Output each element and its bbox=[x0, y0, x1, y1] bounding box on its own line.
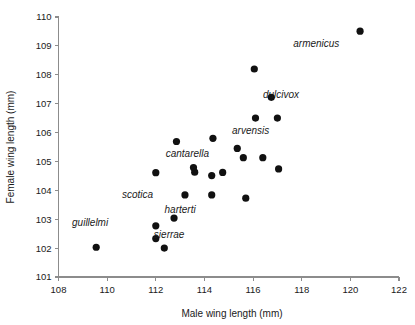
data-point bbox=[209, 135, 216, 142]
y-axis-tick-label: 104 bbox=[36, 185, 52, 196]
data-point bbox=[208, 191, 215, 198]
data-points-group bbox=[93, 28, 364, 252]
species-label: harterti bbox=[165, 204, 197, 215]
y-axis-tick-label: 102 bbox=[36, 243, 52, 254]
x-axis-tick-label: 116 bbox=[245, 284, 260, 295]
species-label: cantarella bbox=[166, 148, 210, 159]
data-point bbox=[93, 244, 100, 251]
x-axis-tick-label: 122 bbox=[391, 284, 407, 295]
data-point bbox=[161, 245, 168, 252]
y-axis-tick-label: 108 bbox=[36, 69, 52, 80]
data-point bbox=[234, 145, 241, 152]
data-point bbox=[356, 28, 363, 35]
species-label: dulcivox bbox=[263, 89, 300, 100]
data-point bbox=[181, 191, 188, 198]
x-axis-tick-label: 120 bbox=[342, 284, 358, 295]
y-axis-tick-label: 105 bbox=[36, 156, 52, 167]
y-axis-tick-label: 103 bbox=[36, 214, 52, 225]
data-point bbox=[240, 154, 247, 161]
data-point bbox=[173, 138, 180, 145]
x-axis-tick-label: 118 bbox=[294, 284, 309, 295]
data-point bbox=[259, 154, 266, 161]
y-axis-tick-label: 109 bbox=[36, 40, 52, 51]
y-axis-tick-label: 101 bbox=[36, 271, 52, 282]
data-point bbox=[251, 65, 258, 72]
x-axis-tick-label: 112 bbox=[148, 284, 163, 295]
chart-canvas: 1011021031041051061071081091101081101121… bbox=[0, 0, 415, 325]
x-axis-tick-label: 114 bbox=[197, 284, 212, 295]
series-annotations-group: armenicusdulcivoxarvensiscantarellascoti… bbox=[72, 38, 339, 240]
species-label: sierrae bbox=[154, 229, 185, 240]
data-point bbox=[275, 165, 282, 172]
x-axis-title: Male wing length (mm) bbox=[181, 308, 282, 319]
x-axis-tick-label: 110 bbox=[100, 284, 115, 295]
data-point bbox=[152, 169, 159, 176]
axis-ticks-group bbox=[55, 17, 400, 281]
axes-group bbox=[59, 17, 400, 277]
data-point bbox=[191, 169, 198, 176]
data-point bbox=[219, 169, 226, 176]
y-axis-title: Female wing length (mm) bbox=[5, 91, 16, 204]
species-label: armenicus bbox=[293, 38, 339, 49]
species-label: arvensis bbox=[232, 125, 269, 136]
data-point bbox=[208, 172, 215, 179]
data-point bbox=[242, 195, 249, 202]
species-label: scotica bbox=[122, 189, 154, 200]
data-point bbox=[252, 115, 259, 122]
y-axis-tick-label: 106 bbox=[36, 127, 52, 138]
data-point bbox=[274, 115, 281, 122]
species-label: guillelmi bbox=[72, 217, 109, 228]
y-axis-tick-label: 107 bbox=[36, 98, 52, 109]
data-point bbox=[170, 214, 177, 221]
axis-tick-labels-group: 1011021031041051061071081091101081101121… bbox=[36, 11, 407, 295]
x-axis-tick-label: 108 bbox=[51, 284, 67, 295]
scatter-plot-figure: 1011021031041051061071081091101081101121… bbox=[0, 0, 415, 325]
y-axis-tick-label: 110 bbox=[36, 11, 51, 22]
